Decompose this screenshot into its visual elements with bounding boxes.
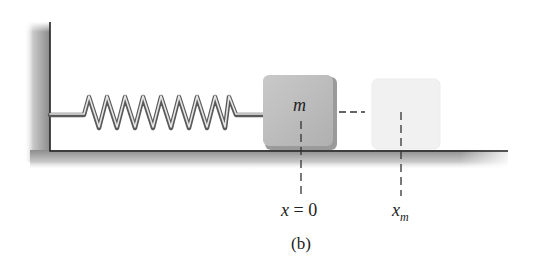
origin-label: x = 0 bbox=[281, 200, 317, 221]
max-label-var: x bbox=[392, 200, 400, 220]
max-label: xm bbox=[392, 200, 409, 225]
figure-caption: (b) bbox=[291, 234, 311, 254]
ghost-block bbox=[372, 79, 440, 149]
origin-label-var: x bbox=[281, 200, 289, 220]
diagram-canvas bbox=[0, 0, 537, 274]
mass-label: m bbox=[293, 95, 306, 116]
max-label-sub: m bbox=[400, 210, 409, 224]
origin-label-eq: = 0 bbox=[289, 200, 317, 220]
spring bbox=[50, 96, 265, 128]
wall bbox=[24, 22, 50, 162]
floor bbox=[30, 150, 510, 170]
spring-mass-diagram: m x = 0 xm (b) bbox=[0, 0, 537, 274]
